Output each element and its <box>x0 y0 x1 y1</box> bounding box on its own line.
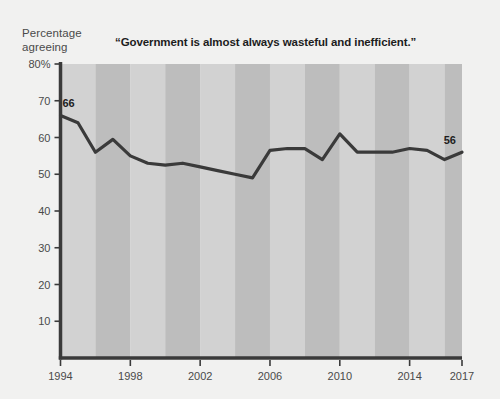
y-tick-label: 80% <box>28 58 50 70</box>
y-tick-label: 70 <box>38 95 50 107</box>
y-tick-label: 30 <box>38 242 50 254</box>
x-tick-label: 1998 <box>118 370 142 382</box>
y-tick-label: 60 <box>38 132 50 144</box>
x-tick-label: 2017 <box>450 370 474 382</box>
year-band <box>375 64 410 358</box>
chart-figure: Percentageagreeing “Government is almost… <box>0 0 500 399</box>
x-tick-label: 2014 <box>397 370 421 382</box>
year-band <box>235 64 270 358</box>
year-band <box>305 64 340 358</box>
year-band <box>270 64 305 358</box>
background-bands <box>61 64 463 358</box>
y-tick-label: 10 <box>38 315 50 327</box>
x-axis-ticks: 1994199820022006201020142017 <box>48 360 474 382</box>
year-band <box>95 64 130 358</box>
y-tick-label: 50 <box>38 168 50 180</box>
year-band <box>165 64 200 358</box>
x-tick-label: 2002 <box>188 370 212 382</box>
y-axis-ticks: 1020304050607080% <box>28 58 59 327</box>
line-chart-plot: 1020304050607080% 1994199820022006201020… <box>0 0 500 399</box>
x-tick-label: 2010 <box>328 370 352 382</box>
year-band <box>445 64 462 358</box>
year-band <box>410 64 445 358</box>
y-tick-label: 40 <box>38 205 50 217</box>
data-point-label: 56 <box>444 134 456 146</box>
year-band <box>200 64 235 358</box>
y-tick-label: 20 <box>38 279 50 291</box>
year-band <box>340 64 375 358</box>
year-band <box>130 64 165 358</box>
x-tick-label: 2006 <box>258 370 282 382</box>
data-point-label: 66 <box>63 97 75 109</box>
x-tick-label: 1994 <box>48 370 72 382</box>
